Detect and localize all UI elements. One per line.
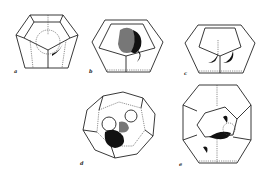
dodecahedron-cage-c	[175, 0, 268, 80]
panel-label-e: e	[179, 161, 182, 167]
panel-label-a: a	[14, 68, 17, 74]
panel-c: c	[175, 0, 268, 80]
dodecahedron-cage-b	[85, 0, 180, 80]
hexakaidecahedron-cage-d	[75, 80, 175, 174]
panel-b: b	[85, 0, 180, 80]
panel-a: a	[0, 0, 90, 80]
panel-label-d: d	[80, 160, 84, 166]
panel-e: e	[165, 75, 268, 174]
panel-label-b: b	[89, 68, 93, 74]
tetrakaidecahedron-cage-e	[165, 75, 268, 174]
panel-d: d	[75, 80, 175, 174]
